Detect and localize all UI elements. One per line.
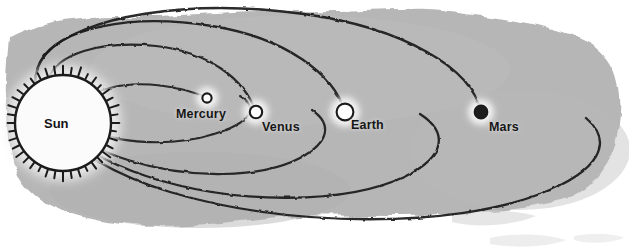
- sun-ray: [111, 131, 116, 132]
- label-mercury: Mercury: [176, 107, 226, 121]
- planet-marker-mars: [474, 105, 487, 118]
- sun-ray: [54, 171, 55, 178]
- label-mars: Mars: [489, 120, 519, 134]
- planet-marker-venus: [250, 106, 262, 118]
- diagram-canvas: [0, 0, 629, 250]
- background-smudges: [452, 210, 624, 246]
- sun-ray: [111, 114, 117, 115]
- sun-ray: [9, 131, 14, 132]
- solar-system-diagram: Sun Mercury Venus Earth Mars: [0, 0, 629, 250]
- label-sun: Sun: [44, 116, 69, 131]
- sun-ray: [54, 66, 55, 74]
- sun-ray: [71, 68, 72, 75]
- sun-ray: [8, 114, 15, 115]
- sun-ray: [71, 171, 72, 178]
- label-earth: Earth: [351, 118, 384, 132]
- planet-marker-mercury: [202, 93, 211, 102]
- label-venus: Venus: [262, 120, 300, 134]
